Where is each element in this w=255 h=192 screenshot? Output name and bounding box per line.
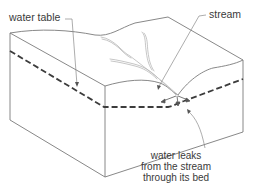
water-table-line xyxy=(10,51,243,107)
stream-label: stream xyxy=(209,9,241,20)
stream-leader xyxy=(158,15,206,88)
block-diagram xyxy=(0,0,255,192)
water-table-leader xyxy=(65,19,77,85)
leak-label: water leaks from the stream through its … xyxy=(136,150,216,183)
top-left-edge xyxy=(10,33,105,86)
leak-leader xyxy=(188,111,205,148)
leak-label-line-1: water leaks xyxy=(136,150,216,161)
stream-network xyxy=(101,32,178,95)
water-table-label: water table xyxy=(9,12,60,23)
leader-arrowheads xyxy=(75,82,191,114)
top-front-edge xyxy=(105,60,243,95)
leak-label-line-3: through its bed xyxy=(136,172,216,183)
leader-lines xyxy=(65,15,206,148)
leak-label-line-2: from the stream xyxy=(136,161,216,172)
bottom-left-edge xyxy=(10,120,105,177)
